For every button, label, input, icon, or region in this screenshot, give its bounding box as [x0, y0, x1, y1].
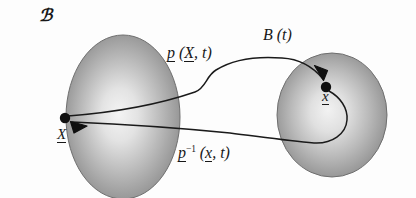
- forward-map-comma: ,: [194, 44, 202, 61]
- reference-point-symbol: X: [57, 127, 66, 143]
- inverse-map-open-paren: (: [196, 144, 205, 161]
- forward-map-argument: X: [184, 45, 194, 62]
- current-point-symbol: x: [322, 89, 329, 105]
- reference-configuration-blob: [66, 35, 180, 198]
- figure-container: ℬ B (t) p (X, t) p−1 (x, t) X x: [0, 0, 416, 198]
- diagram-canvas: [0, 0, 416, 198]
- inverse-map-close-paren: ): [225, 144, 230, 161]
- current-point-label: x: [322, 89, 329, 105]
- body-current-label: B (t): [263, 27, 292, 43]
- inverse-map-operator: p: [178, 145, 186, 162]
- reference-point-dot: [60, 113, 70, 123]
- body-reference-label: ℬ: [39, 7, 52, 24]
- reference-point-label: X: [57, 127, 66, 143]
- forward-map-operator: p: [167, 45, 175, 62]
- inverse-map-comma: ,: [212, 144, 220, 161]
- forward-map-close-paren: ): [207, 44, 212, 61]
- inverse-map-superscript: −1: [186, 144, 196, 154]
- forward-map-label: p (X, t): [167, 45, 212, 62]
- forward-map-open-paren: (: [175, 44, 184, 61]
- inverse-map-label: p−1 (x, t): [178, 145, 230, 162]
- current-configuration-blob: [277, 53, 387, 177]
